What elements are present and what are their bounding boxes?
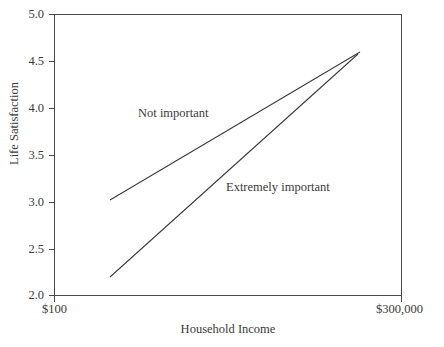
plot-canvas <box>0 0 444 347</box>
ytick-label-5-0: 5.0 <box>10 8 44 21</box>
xtick-label-left: $100 <box>42 303 67 316</box>
y-axis-title: Life Satisfaction <box>7 64 22 184</box>
ytick-label-2-0: 2.0 <box>10 289 44 302</box>
chart-figure: 5.0 4.5 4.0 3.5 3.0 2.5 2.0 $100 $300,00… <box>0 0 444 347</box>
xtick-label-right: $300,000 <box>376 303 423 316</box>
x-axis-title: Household Income <box>54 322 402 337</box>
series-label-not-important: Not important <box>138 106 208 121</box>
ytick-label-2-5: 2.5 <box>10 243 44 256</box>
ytick-label-3-0: 3.0 <box>10 196 44 209</box>
series-label-extremely-important: Extremely important <box>226 180 330 195</box>
series-line-extremely-important <box>110 54 358 277</box>
series-line-not-important <box>110 52 360 200</box>
